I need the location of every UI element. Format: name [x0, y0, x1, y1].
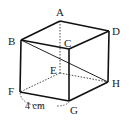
dimension-label: 4 cm [25, 100, 45, 111]
edge-BC [21, 40, 69, 49]
label-D: D [112, 25, 120, 37]
edge-AB [21, 21, 60, 40]
label-G: G [70, 104, 78, 116]
label-F: F [8, 85, 14, 97]
label-B: B [8, 35, 15, 47]
edge-DH [108, 31, 109, 82]
cube-diagram: A B C D E F G H 4 cm [0, 0, 130, 121]
edge-BF [20, 40, 21, 92]
label-A: A [56, 6, 64, 18]
edge-AD [60, 21, 109, 31]
edge-EH [60, 73, 108, 82]
edge-CD [69, 31, 109, 49]
edge-GH [69, 82, 108, 101]
label-E: E [50, 64, 57, 76]
label-C: C [64, 37, 71, 49]
label-H: H [112, 77, 120, 89]
